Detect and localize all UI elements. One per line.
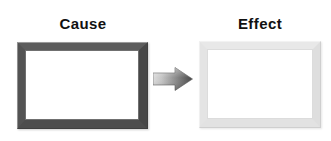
right-arrow-icon [153, 67, 193, 91]
cause-frame [17, 42, 148, 129]
cause-effect-diagram: Cause Effect [0, 0, 331, 141]
effect-frame [199, 41, 321, 128]
effect-label: Effect [199, 15, 321, 32]
cause-label: Cause [17, 15, 149, 32]
